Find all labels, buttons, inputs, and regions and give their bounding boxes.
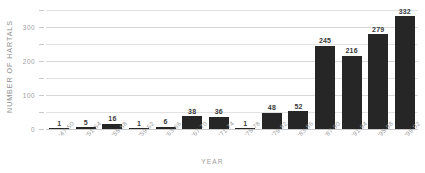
bar-series: 151616383614852245216279332 xyxy=(46,10,418,129)
y-axis-title-text: NUMBER OF HARTALS xyxy=(5,20,14,113)
bar-value-label: 16 xyxy=(108,115,116,122)
x-axis-tick-label: '83-86 xyxy=(285,131,312,157)
bar-value-label: 279 xyxy=(372,26,384,33)
bar-value-label: 216 xyxy=(346,47,358,54)
x-axis-tick-label: '87-90 xyxy=(312,131,339,157)
y-axis-tick xyxy=(39,112,44,113)
x-axis-tick-label: '67-70 xyxy=(179,131,206,157)
y-axis-title: NUMBER OF HARTALS xyxy=(0,0,18,133)
bar-slot: 48 xyxy=(259,10,286,129)
bar-slot: 52 xyxy=(285,10,312,129)
y-axis-tick xyxy=(39,27,44,28)
x-axis-tick-label: '71-74 xyxy=(205,131,232,157)
bar-slot: 38 xyxy=(179,10,206,129)
bar-value-label: 5 xyxy=(84,119,88,126)
y-axis-tick xyxy=(39,10,44,11)
y-axis-tick xyxy=(39,61,44,62)
bar-slot: 1 xyxy=(126,10,153,129)
bar[interactable]: 279 xyxy=(368,34,388,129)
y-axis-tick xyxy=(39,44,44,45)
bar-slot: 245 xyxy=(312,10,339,129)
bar-slot: 6 xyxy=(152,10,179,129)
bar-value-label: 36 xyxy=(215,108,223,115)
y-axis-tick-label: 200 xyxy=(23,58,35,65)
bar-value-label: 52 xyxy=(294,103,302,110)
y-axis-tick xyxy=(39,78,44,79)
bar-value-label: 1 xyxy=(57,120,61,127)
bar-slot: 279 xyxy=(365,10,392,129)
bar-value-label: 1 xyxy=(243,120,247,127)
x-axis-tick-label: '95-98 xyxy=(365,131,392,157)
plot-area: 0100200300 151616383614852245216279332 xyxy=(46,10,418,129)
x-axis-tick-label: '79-82 xyxy=(259,131,286,157)
x-axis-title: YEAR xyxy=(0,158,425,165)
x-axis-tick-label: '91-94 xyxy=(338,131,365,157)
bar[interactable]: 245 xyxy=(315,46,335,129)
bar-slot: 1 xyxy=(232,10,259,129)
bar-value-label: 245 xyxy=(319,37,331,44)
bar-value-label: 1 xyxy=(137,120,141,127)
x-axis-tick-label: '99-02 xyxy=(392,131,419,157)
x-axis-tick-label: '59-62 xyxy=(126,131,153,157)
x-axis-tick-labels: '47-50'51-54'55-58'59-62'63-66'67-70'71-… xyxy=(46,131,418,157)
bar-slot: 36 xyxy=(205,10,232,129)
x-axis-tick-label: '51-54 xyxy=(73,131,100,157)
x-axis-tick-label: '75-78 xyxy=(232,131,259,157)
y-axis-tick xyxy=(39,95,44,96)
x-axis-tick-label: '63-66 xyxy=(152,131,179,157)
x-axis-title-text: YEAR xyxy=(201,158,223,165)
bar[interactable]: 332 xyxy=(395,16,415,129)
bar-slot: 216 xyxy=(338,10,365,129)
bar-slot: 16 xyxy=(99,10,126,129)
bar-slot: 5 xyxy=(73,10,100,129)
y-axis-tick-label: 100 xyxy=(23,92,35,99)
bar[interactable]: 216 xyxy=(342,56,362,129)
y-axis-tick-label: 300 xyxy=(23,24,35,31)
bar-value-label: 6 xyxy=(164,118,168,125)
bar-slot: 332 xyxy=(392,10,419,129)
bar-value-label: 38 xyxy=(188,108,196,115)
bar-chart: NUMBER OF HARTALS 0100200300 15161638361… xyxy=(0,0,425,173)
bar-value-label: 48 xyxy=(268,104,276,111)
y-axis-tick-label: 0 xyxy=(31,126,35,133)
x-axis-tick-label: '47-50 xyxy=(46,131,73,157)
bar-value-label: 332 xyxy=(399,8,411,15)
x-axis-tick-label: '55-58 xyxy=(99,131,126,157)
bar-slot: 1 xyxy=(46,10,73,129)
y-axis-tick xyxy=(39,129,44,130)
